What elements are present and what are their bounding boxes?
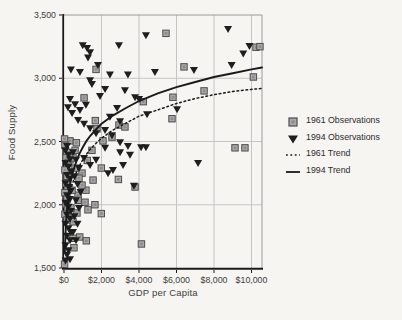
data-point-1961-inner — [183, 66, 186, 69]
data-point-1994 — [67, 66, 75, 73]
triangle-down-marker-icon — [285, 131, 302, 143]
data-point-1961-inner — [86, 159, 89, 162]
y-axis-title: Food Supply — [6, 78, 17, 188]
data-point-1994 — [190, 67, 198, 74]
data-point-1961-inner — [102, 140, 105, 143]
data-point-1961-inner — [252, 76, 255, 79]
data-point-1961-inner — [234, 147, 237, 150]
legend: 1961 Observations 1994 Observations 1961… — [285, 113, 380, 177]
data-point-1994 — [224, 26, 232, 33]
data-point-1961-inner — [203, 90, 206, 93]
legend-item-1961-observations: 1961 Observations — [285, 113, 380, 127]
scatter-figure: $0$2,000$4,000$6,000$8,000$10,0001,5002,… — [0, 0, 402, 320]
data-point-1961-inner — [244, 147, 247, 150]
data-point-1994 — [101, 127, 109, 134]
data-point-1961-inner — [84, 201, 87, 204]
data-point-1961-inner — [69, 140, 72, 143]
data-point-1994 — [76, 69, 84, 76]
data-point-1994 — [88, 81, 96, 88]
data-point-1961-inner — [95, 68, 98, 71]
data-point-1961-inner — [140, 243, 143, 246]
legend-label: 1961 Observations — [306, 115, 380, 125]
data-point-1994 — [173, 106, 181, 113]
solid-line-icon — [285, 164, 302, 176]
x-tick-label: $8,000 — [201, 275, 228, 285]
data-point-1994 — [126, 152, 134, 159]
data-point-1994 — [106, 71, 114, 78]
data-point-1994 — [245, 43, 253, 50]
data-point-1994 — [74, 117, 82, 124]
data-point-1994 — [115, 42, 123, 49]
data-point-1994 — [194, 160, 202, 167]
data-point-1961-inner — [78, 177, 81, 180]
data-point-1961-inner — [117, 178, 120, 181]
data-point-1961-inner — [63, 138, 66, 141]
legend-label: 1994 Trend — [306, 165, 351, 175]
data-point-1961-inner — [83, 97, 86, 100]
y-tick-label: 3,000 — [34, 73, 56, 83]
data-point-1961-inner — [85, 240, 88, 243]
data-point-1961-inner — [92, 179, 95, 182]
data-point-1994 — [101, 86, 109, 93]
data-point-1961-inner — [172, 96, 175, 99]
data-point-1961-inner — [94, 119, 97, 122]
y-tick-label: 2,500 — [34, 137, 56, 147]
data-point-1961-inner — [100, 167, 103, 170]
data-point-1994 — [142, 32, 150, 39]
data-point-1961-inner — [81, 172, 84, 175]
data-point-1961-inner — [64, 169, 67, 172]
data-point-1961-inner — [259, 45, 262, 48]
data-point-1961-inner — [77, 194, 80, 197]
data-point-1994 — [228, 62, 236, 69]
data-point-1994 — [68, 110, 76, 117]
data-point-1961-inner — [87, 209, 90, 212]
square-marker-icon — [285, 114, 302, 126]
data-point-1961-inner — [94, 203, 97, 206]
legend-item-1994-trend: 1994 Trend — [285, 163, 380, 177]
data-point-1994 — [116, 149, 124, 156]
data-point-1994 — [124, 71, 132, 78]
data-point-1961-inner — [171, 117, 174, 120]
data-point-1961-inner — [124, 126, 127, 129]
data-point-1994 — [116, 139, 124, 146]
data-point-1961-inner — [142, 100, 145, 103]
x-tick-label: $10,000 — [236, 275, 268, 285]
legend-item-1961-trend: 1961 Trend — [285, 146, 380, 160]
trend-line-1961 — [67, 88, 262, 217]
data-point-1994 — [84, 54, 92, 61]
data-point-1961-inner — [91, 149, 94, 152]
data-point-1961-inner — [81, 184, 84, 187]
data-point-1961-inner — [75, 141, 78, 144]
data-point-1994 — [96, 93, 104, 100]
data-point-1994 — [101, 145, 109, 152]
y-tick-label: 3,500 — [34, 10, 56, 20]
x-tick-label: $2,000 — [88, 275, 115, 285]
legend-item-1994-observations: 1994 Observations — [285, 130, 380, 144]
data-point-1994 — [151, 69, 159, 76]
data-point-1994 — [86, 162, 94, 169]
data-point-1994 — [121, 87, 129, 94]
data-point-1994 — [119, 162, 127, 169]
dotted-line-icon — [285, 147, 302, 159]
data-point-1994 — [76, 107, 84, 114]
y-tick-label: 1,500 — [34, 263, 56, 273]
x-tick-label: $6,000 — [163, 275, 190, 285]
x-axis-title: GDP per Capita — [64, 287, 262, 298]
data-point-1961-inner — [100, 212, 103, 215]
data-point-1994 — [239, 51, 247, 58]
y-tick-label: 2,000 — [34, 200, 56, 210]
legend-label: 1994 Observations — [306, 132, 380, 142]
data-point-1961-inner — [73, 246, 76, 249]
data-point-1994 — [142, 144, 150, 151]
x-tick-label: $0 — [59, 275, 69, 285]
data-point-1994 — [124, 143, 132, 150]
data-point-1994 — [80, 121, 88, 128]
data-point-1961-inner — [165, 32, 168, 35]
x-tick-label: $4,000 — [126, 275, 153, 285]
legend-label: 1961 Trend — [306, 148, 351, 158]
data-point-1994 — [104, 170, 112, 177]
data-point-1961-inner — [85, 189, 88, 192]
